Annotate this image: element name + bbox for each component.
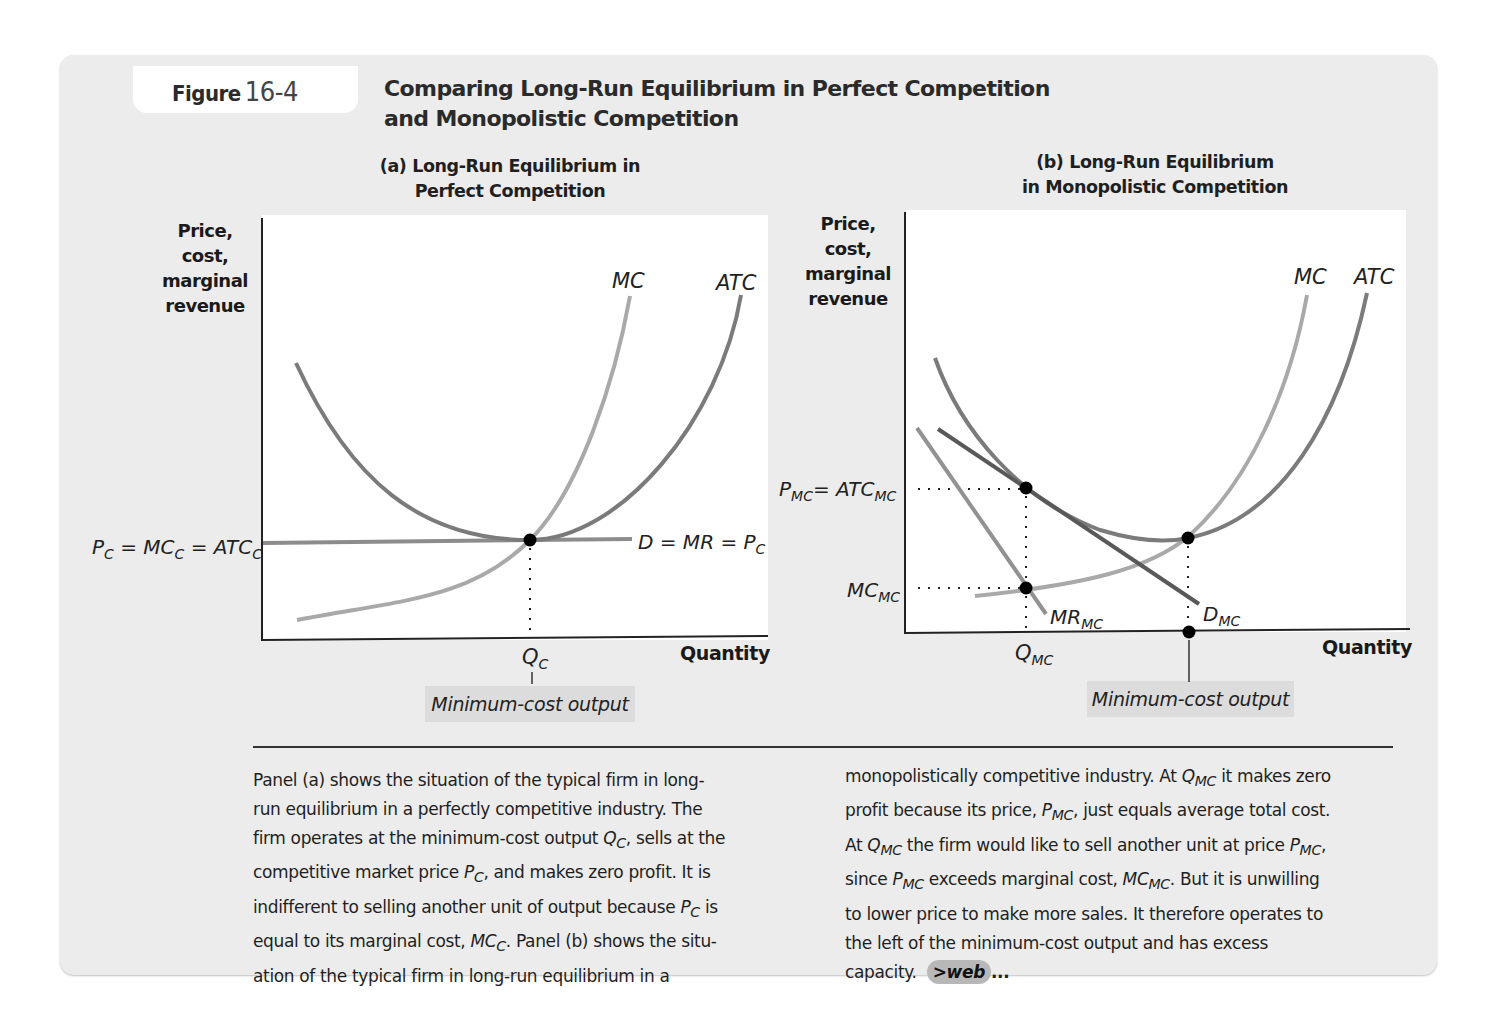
- panel-b-min-cost-output-point: [1183, 626, 1196, 639]
- panel-a-qc-label: QC: [522, 645, 549, 672]
- caption-line: firm operates at the minimum-cost output…: [253, 824, 808, 858]
- panel-b-mc-label: MC: [1294, 265, 1327, 289]
- caption-line: capacity. >web...: [845, 958, 1400, 987]
- web-ellipsis: ...: [991, 962, 1009, 982]
- caption-line: since PMC exceeds marginal cost, MCMC. B…: [845, 865, 1400, 899]
- panel-b-price-label: PMC= ATCMC: [779, 477, 897, 504]
- caption-line: to lower price to make more sales. It th…: [845, 900, 1400, 929]
- caption-last-line: capacity.: [845, 962, 917, 982]
- caption-divider: [253, 746, 1393, 748]
- caption-right-column: monopolistically competitive industry. A…: [845, 762, 1400, 987]
- panel-a-price-label: PC = MCC = ATCC: [92, 535, 262, 562]
- panel-a-mc-label: MC: [612, 269, 645, 293]
- caption-line: At QMC the firm would like to sell anoth…: [845, 831, 1400, 865]
- panel-a-equilibrium-point: [524, 534, 537, 547]
- caption-line: equal to its marginal cost, MCC. Panel (…: [253, 927, 808, 961]
- panel-b-qmc-label: QMC: [1015, 641, 1054, 668]
- panel-b-mr-mc-point: [1020, 582, 1033, 595]
- web-link[interactable]: >web: [927, 960, 991, 984]
- panel-b-atc-min-point: [1182, 532, 1195, 545]
- panel-b-tangency-point: [1020, 482, 1033, 495]
- panel-b-mc-value-label: MCMC: [847, 578, 900, 605]
- caption-line: the left of the minimum-cost output and …: [845, 929, 1400, 958]
- caption-line: indifferent to selling another unit of o…: [253, 893, 808, 927]
- caption-line: ation of the typical firm in long-run eq…: [253, 962, 808, 991]
- caption-line: profit because its price, PMC, just equa…: [845, 796, 1400, 830]
- caption-line: monopolistically competitive industry. A…: [845, 762, 1400, 796]
- panel-b-chart: MC ATC MRMC DMC PMC= ATCMC MCMC QMC: [779, 210, 1410, 682]
- panel-a-plot-area: [262, 215, 768, 640]
- panel-a-chart: MC ATC D = MR = PC PC = MCC = ATCC QC: [92, 215, 768, 684]
- caption-line: Panel (a) shows the situation of the typ…: [253, 766, 808, 795]
- panel-b-atc-label: ATC: [1352, 265, 1395, 289]
- panel-a-demand-label: D = MR = PC: [638, 530, 766, 557]
- panel-a-atc-label: ATC: [714, 271, 757, 295]
- panel-b-plot-area: [906, 210, 1406, 632]
- caption-left-column: Panel (a) shows the situation of the typ…: [253, 766, 808, 991]
- caption-line: run equilibrium in a perfectly competiti…: [253, 795, 808, 824]
- caption-line: competitive market price PC, and makes z…: [253, 858, 808, 892]
